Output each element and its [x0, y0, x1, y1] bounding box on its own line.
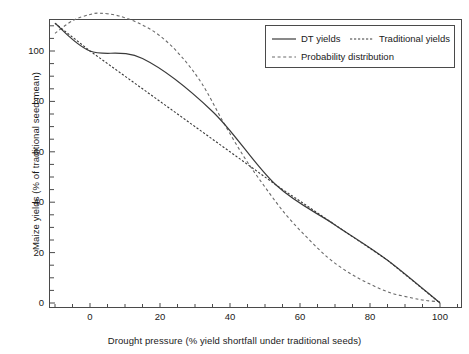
y-axis-title: Maize yields (% of traditional seed mean… [30, 72, 41, 250]
plot-canvas [0, 0, 469, 354]
x-tick-label-40: 40 [210, 311, 250, 322]
x-axis-title: Drought pressure (% yield shortfall unde… [0, 335, 469, 346]
legend-label-dt-yields[interactable]: DT yields [301, 33, 340, 44]
x-tick-label-0: 0 [70, 311, 110, 322]
y-axis-title-wrapper: Maize yields (% of traditional seed mean… [25, 11, 43, 311]
x-tick-label-80: 80 [350, 311, 390, 322]
chart-figure: DT yields Traditional yields Probability… [0, 0, 469, 354]
x-tick-label-20: 20 [140, 311, 180, 322]
x-tick-label-100: 100 [420, 311, 460, 322]
legend-label-traditional-yields[interactable]: Traditional yields [379, 33, 450, 44]
y-axis-ticks [50, 26, 55, 303]
legend-label-probability-distribution[interactable]: Probability distribution [301, 51, 394, 62]
x-tick-label-60: 60 [280, 311, 320, 322]
